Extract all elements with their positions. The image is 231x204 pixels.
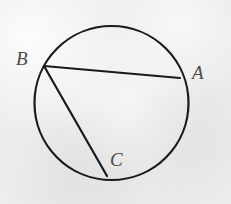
point-label-b: B	[16, 49, 28, 68]
chord-ba-line	[44, 66, 180, 78]
chord-bc-line	[44, 66, 107, 176]
geometry-figure: B A C	[0, 0, 231, 204]
circle-diagram-canvas	[0, 0, 231, 204]
point-label-a: A	[192, 63, 204, 82]
point-label-c: C	[110, 150, 123, 169]
